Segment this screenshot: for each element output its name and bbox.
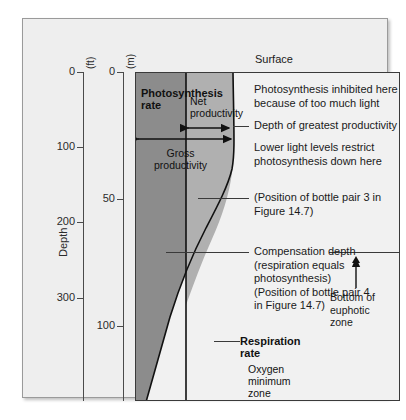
annotation-compensation-depth: Compensation depth (respiration equals p…: [254, 245, 370, 313]
feet-axis-tick: [77, 147, 83, 148]
depth-axis-title: Depth: [57, 228, 69, 257]
leader-respiration-rate: [214, 341, 240, 342]
feet-axis-tick-label: 0: [35, 65, 75, 77]
feet-axis-line: [83, 72, 84, 401]
annotation-lower-light: Lower light levels restrict photosynthes…: [254, 141, 382, 168]
meters-axis-unit: (m): [125, 54, 136, 69]
feet-axis-tick-label: 200: [35, 215, 75, 227]
annotation-greatest-productivity: Depth of greatest productivity: [254, 119, 397, 133]
surface-label: Surface: [255, 53, 293, 65]
figure-panel: Depth Surface (ft) (m): [22, 18, 388, 398]
leader-greatest-productivity: [233, 126, 249, 127]
meters-axis-tick-label: 0: [75, 65, 115, 77]
respiration-rate-label: Respiration rate: [240, 335, 301, 359]
meters-axis-line: [123, 72, 124, 401]
oxygen-minimum-zone-label: Oxygen minimum zone: [248, 363, 291, 399]
meters-axis-tick: [117, 199, 123, 200]
leader-compensation-depth: [166, 252, 249, 253]
annotation-bottle-pair-3: (Position of bottle pair 3 in Figure 14.…: [254, 191, 381, 218]
annotation-inhibited: Photosynthesis inhibited here because of…: [254, 83, 398, 110]
feet-axis-tick: [77, 298, 83, 299]
net-productivity-label: Net productivity: [190, 95, 243, 119]
feet-axis-tick-label: 300: [35, 291, 75, 303]
meters-axis-tick-label: 100: [75, 319, 115, 331]
gross-productivity-label: Gross productivity: [154, 147, 207, 171]
meters-axis-tick: [117, 72, 123, 73]
leader-bottle-pair-3: [198, 198, 249, 199]
feet-axis-tick-label: 100: [35, 140, 75, 152]
plot-area: Photosynthesis rate Net productivity Gro…: [135, 72, 400, 401]
feet-axis-tick: [77, 222, 83, 223]
meters-axis-tick-label: 50: [75, 192, 115, 204]
meters-axis-tick: [117, 326, 123, 327]
